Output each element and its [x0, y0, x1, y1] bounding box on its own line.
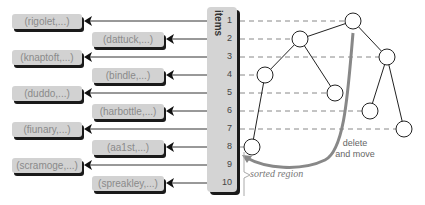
record-box: (spreakley,...)	[92, 176, 164, 191]
index-label: 7	[214, 123, 232, 133]
heap-nodes	[244, 13, 412, 155]
and-move-label: and move	[330, 149, 380, 159]
record-box: (rigolet,...)	[12, 14, 82, 29]
index-label: 3	[214, 51, 232, 61]
delete-label: delete	[330, 138, 380, 148]
record-box: (dattuck,...)	[92, 32, 164, 47]
index-label: 5	[214, 87, 232, 97]
index-label: 10	[214, 177, 232, 187]
index-label: 4	[214, 69, 232, 79]
record-box: (knaptoft,...)	[12, 50, 82, 65]
record-box: (aa1st,...)	[92, 140, 164, 155]
heap-edges	[252, 21, 404, 147]
record-box: (scramoge,...)	[12, 158, 82, 173]
index-label: 1	[214, 15, 232, 25]
index-label: 8	[214, 141, 232, 151]
index-label: 9	[214, 159, 232, 169]
record-box: (fiunary,...)	[12, 122, 82, 137]
record-box: (duddo,...)	[12, 86, 82, 101]
index-label: 6	[214, 105, 232, 115]
record-box: (harbottle,...)	[92, 104, 164, 119]
sorted-region-label: sorted region	[250, 168, 303, 179]
index-label: 2	[214, 33, 232, 43]
record-box: (bindle,...)	[92, 68, 164, 83]
